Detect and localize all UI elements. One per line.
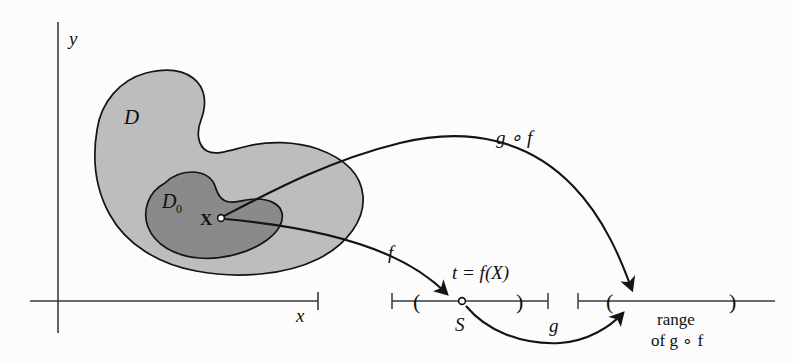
arrow-gof-label: g ∘ f: [496, 127, 535, 148]
y-axis-label: y: [67, 28, 78, 49]
number-line-range-open-paren: (: [606, 289, 613, 314]
number-line-range-close-paren: ): [729, 289, 736, 314]
number-line-s-close-paren: ): [516, 289, 523, 314]
point-x-marker: [218, 215, 225, 222]
region-D-label: D: [123, 105, 139, 129]
range-label-line1: range: [657, 310, 695, 329]
point-s-label: S: [455, 314, 465, 335]
x-axis-label: x: [295, 305, 305, 326]
point-x-label: X: [200, 210, 213, 229]
number-line-s-open-paren: (: [413, 289, 420, 314]
region-D0-label-subscript: 0: [176, 202, 182, 216]
arrow-f-label: f: [388, 242, 396, 263]
arrow-g: [466, 306, 623, 343]
composition-diagram: y x D D 0 X f g ∘ f t = f(X) ( ): [0, 0, 793, 363]
range-label-line2: of g ∘ f: [651, 331, 703, 350]
figure-canvas: y x D D 0 X f g ∘ f t = f(X) ( ): [0, 0, 793, 363]
t-equals-fx-label: t = f(X): [452, 262, 509, 284]
arrow-g-label: g: [549, 315, 559, 336]
region-D0-label-main: D: [161, 190, 177, 212]
point-s-marker: [459, 298, 466, 305]
